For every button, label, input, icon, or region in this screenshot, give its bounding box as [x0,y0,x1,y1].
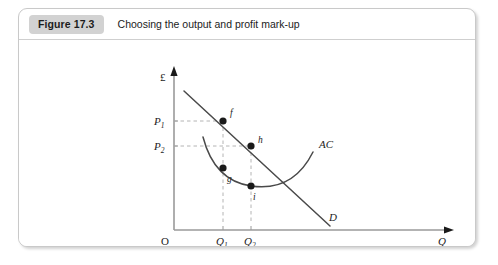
demand-curve [184,91,330,226]
point-marker-h [247,142,254,149]
y-tick-label-p2-subscript: 2 [161,146,165,155]
y-tick-label-p2: P2 [153,140,165,155]
x-tick-label-q2-subscript: 2 [252,241,256,247]
x-axis-arrowhead [444,226,454,233]
y-axis-label: £ [160,71,166,83]
point-label-g: g [227,174,232,184]
origin-label: O [161,235,169,247]
figure-title: Choosing the output and profit mark-up [118,18,300,30]
tick-marks-group [174,121,251,230]
x-tick-label-q1: Q1 [216,235,228,247]
point-label-f: f [230,108,234,118]
x-tick-label-q2: Q2 [244,235,256,247]
figure-number-badge: Figure 17.3 [29,15,104,34]
guide-lines-group [174,121,251,222]
chart-plot-area: f h g i AC D £ Q O P1 P2 Q1 Q2 [19,40,475,247]
figure-card: Figure 17.3 Choosing the output and prof… [18,8,476,247]
figure-header: Figure 17.3 Choosing the output and prof… [19,9,475,40]
x-tick-label-q2-base: Q [244,235,252,247]
point-label-h: h [258,135,263,145]
economics-diagram: f h g i AC D £ Q O P1 P2 Q1 Q2 [19,40,476,247]
curve-label-ac: AC [318,138,334,150]
y-tick-label-p1: P1 [153,115,164,130]
x-axis-label: Q [438,235,446,247]
axes-group [170,66,454,234]
point-marker-g [219,164,226,171]
y-tick-label-p1-subscript: 1 [161,121,165,130]
point-label-i: i [253,192,256,202]
point-marker-f [219,117,226,124]
y-axis-arrowhead [170,66,177,76]
point-marker-i [247,182,254,189]
x-tick-label-q1-base: Q [216,235,224,247]
x-tick-label-q1-subscript: 1 [224,241,228,247]
curve-label-d: D [328,211,337,223]
